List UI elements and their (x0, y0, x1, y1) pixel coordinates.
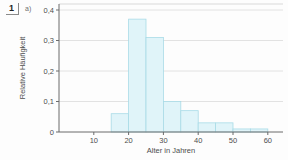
y-tick-label: 0,3 (44, 36, 54, 45)
histogram-bar (198, 123, 215, 132)
y-tick-label: 0,4 (44, 6, 54, 15)
x-tick-label: 50 (229, 136, 237, 145)
x-tick-label: 40 (194, 136, 202, 145)
x-tick-label: 60 (264, 136, 272, 145)
histogram-bar (181, 111, 198, 132)
y-tick-label: 0,2 (44, 67, 54, 76)
histogram-bar (163, 102, 180, 133)
histogram-bar (129, 19, 146, 132)
histogram-bar (146, 37, 163, 132)
histogram-bar (111, 114, 128, 132)
x-tick-label: 20 (124, 136, 132, 145)
textbook-figure: 1 a) 10203040506000,10,20,30,4Alter in J… (0, 0, 288, 160)
histogram-chart: 10203040506000,10,20,30,4Alter in Jahren… (0, 0, 288, 160)
x-tick-label: 10 (90, 136, 98, 145)
x-tick-label: 30 (159, 136, 167, 145)
y-axis-title: Relative Häufigkeit (18, 36, 27, 99)
y-tick-label: 0 (50, 128, 54, 137)
histogram-bar (216, 123, 233, 132)
x-axis-title: Alter in Jahren (147, 146, 195, 155)
y-tick-label: 0,1 (44, 97, 54, 106)
